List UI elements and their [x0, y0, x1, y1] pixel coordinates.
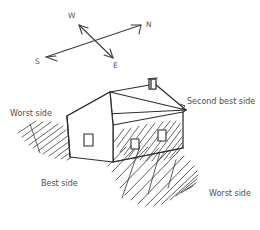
front-gable-wall — [67, 92, 113, 162]
label-worst-side-left: Worst side — [10, 110, 52, 118]
compass-label-west: W — [68, 12, 75, 20]
compass-rose-group — [46, 25, 141, 61]
diagram-canvas: W N S E Worst side Second best side Best… — [0, 0, 260, 230]
label-second-best-side: Second best side — [187, 98, 255, 106]
window-right-wall-1 — [131, 139, 139, 149]
house-group — [67, 78, 186, 162]
window-right-wall-2 — [158, 130, 166, 141]
left-shadow-hatch — [18, 121, 72, 160]
label-best-side: Best side — [41, 180, 78, 188]
compass-label-east: E — [113, 62, 118, 70]
label-worst-side-right: Worst side — [209, 190, 251, 198]
chimney — [148, 78, 157, 89]
compass-axis-north-south — [46, 25, 141, 57]
right-shadow-hatch — [108, 146, 198, 206]
compass-label-south: S — [35, 58, 40, 66]
compass-arrowhead-south — [46, 56, 57, 61]
window-front-gable — [84, 134, 93, 146]
compass-label-north: N — [146, 21, 152, 29]
compass-axis-west-east — [79, 25, 113, 58]
